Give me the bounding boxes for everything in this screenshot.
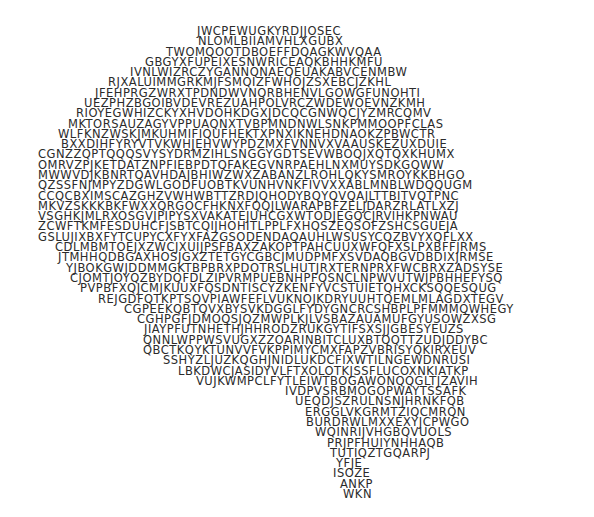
letter-row: WKN — [343, 489, 372, 501]
brain-typography-artwork: JWCPEWUGKYRDJJOSECNLOMLBIIAMVHLXGUBXTWOM… — [0, 0, 594, 517]
